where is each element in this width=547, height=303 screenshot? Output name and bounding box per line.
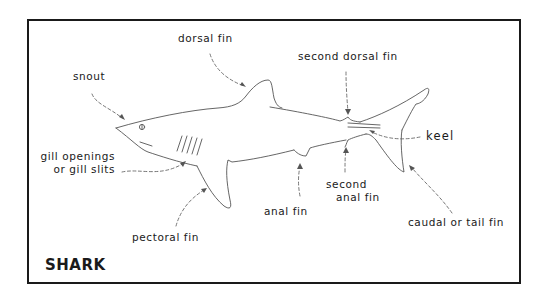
label-gill-line1: gill openings [40, 150, 115, 163]
gill-slit-2 [182, 136, 187, 152]
label-second-dorsal-fin: second dorsal fin [298, 50, 398, 63]
label-second-anal-line2: anal fin [326, 191, 380, 204]
arrowhead-dorsal [240, 82, 246, 87]
label-caudal-fin: caudal or tail fin [408, 216, 504, 229]
arrowhead-pectoral [201, 188, 207, 193]
shark-throat [116, 128, 197, 166]
label-gill-openings: gill openings or gill slits [40, 150, 115, 176]
arrowhead-second-anal [343, 147, 349, 153]
shark-belly-rear [294, 140, 346, 156]
arrow-keel [372, 132, 420, 139]
shark-mouth [140, 142, 152, 146]
gill-slit-3 [187, 137, 192, 153]
arrow-gills [122, 163, 184, 172]
diagram-title: SHARK [45, 256, 106, 274]
label-keel: keel [426, 130, 454, 143]
arrow-second-anal [345, 150, 346, 172]
keel-line-1 [348, 123, 380, 125]
caudal-lower-lobe [366, 130, 404, 172]
arrowhead-anal [297, 163, 303, 169]
label-gill-line2: or gill slits [40, 163, 115, 176]
label-anal-fin: anal fin [264, 205, 308, 218]
label-pectoral-fin: pectoral fin [132, 231, 199, 244]
arrow-snout [92, 94, 122, 118]
gill-slit-5 [197, 139, 202, 155]
arrow-caudal [412, 168, 452, 213]
shark-lower-rear [345, 134, 366, 147]
arrow-pectoral [176, 190, 204, 226]
arrow-dorsal-fin [210, 54, 244, 86]
gill-slit-1 [177, 136, 182, 151]
arrowhead-snout [119, 114, 125, 120]
gill-slit-4 [192, 138, 197, 154]
label-snout: snout [73, 70, 105, 83]
arrowhead-second-dorsal [345, 109, 351, 115]
keel-line-2 [348, 127, 380, 128]
label-second-anal-line1: second [326, 178, 380, 191]
shark-belly [197, 150, 294, 208]
arrow-second-dorsal [346, 72, 348, 112]
label-dorsal-fin: dorsal fin [178, 32, 233, 45]
arrow-anal-fin [299, 166, 301, 196]
caudal-upper-lobe [360, 88, 429, 130]
shark-upper-body [116, 80, 282, 128]
label-second-anal-fin: second anal fin [326, 178, 380, 204]
